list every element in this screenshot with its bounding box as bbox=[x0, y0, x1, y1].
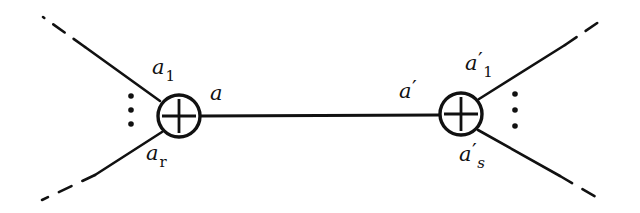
label-base: a bbox=[146, 141, 159, 165]
right-ellipsis-dot bbox=[512, 107, 518, 113]
label-base: a bbox=[210, 81, 223, 105]
label-internal-left: a bbox=[210, 80, 224, 110]
left-upper-leg-solid bbox=[85, 47, 160, 101]
right-ellipsis-dot bbox=[512, 123, 518, 129]
left-lower-leg-dashed bbox=[42, 175, 95, 200]
internal-line-group bbox=[200, 115, 440, 116]
right-ellipsis bbox=[512, 91, 518, 129]
label-subscript: 1 bbox=[483, 63, 493, 81]
label-base: a bbox=[152, 55, 165, 79]
vertex-diagram-figure: a1 ar a a′ a′1 a′s bbox=[0, 0, 640, 213]
left-ellipsis-dot bbox=[128, 107, 134, 113]
diagram-canvas bbox=[0, 0, 640, 213]
label-subscript: r bbox=[160, 153, 167, 171]
label-right-bottom-leg: a′s bbox=[459, 141, 485, 171]
left-upper-leg-group bbox=[43, 17, 160, 101]
right-ellipsis-dot bbox=[512, 91, 518, 97]
left-upper-leg-dashed bbox=[43, 17, 85, 47]
label-left-top-leg: a1 bbox=[152, 54, 175, 84]
label-subscript: 1 bbox=[166, 67, 176, 85]
label-subscript: s bbox=[477, 154, 485, 172]
label-internal-right: a′ bbox=[399, 78, 417, 108]
right-lower-leg-dashed bbox=[560, 176, 601, 200]
label-base: a bbox=[465, 51, 478, 75]
label-prime: ′ bbox=[412, 76, 417, 100]
left-ellipsis bbox=[128, 93, 134, 127]
right-vertex bbox=[440, 93, 482, 135]
left-vertex bbox=[158, 95, 200, 137]
left-lower-leg-group bbox=[42, 132, 162, 200]
right-lower-leg-group bbox=[478, 130, 601, 200]
label-left-bottom-leg: ar bbox=[146, 140, 167, 170]
right-upper-leg-dashed bbox=[565, 17, 606, 45]
label-base: a bbox=[399, 79, 412, 103]
right-lower-leg-solid bbox=[478, 130, 560, 176]
internal-line bbox=[200, 115, 440, 116]
left-ellipsis-dot bbox=[128, 121, 134, 127]
right-upper-leg-group bbox=[479, 17, 606, 99]
left-ellipsis-dot bbox=[128, 93, 134, 99]
label-right-top-leg: a′1 bbox=[465, 50, 493, 80]
label-base: a bbox=[459, 142, 472, 166]
